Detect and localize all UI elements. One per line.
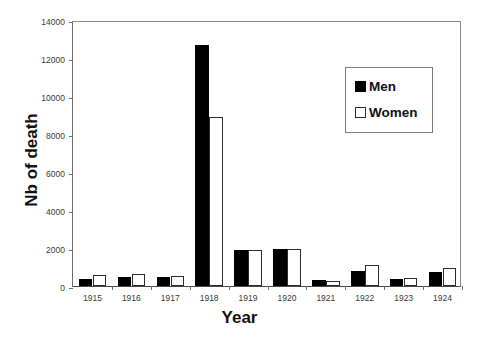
bar-men-1917: [157, 277, 171, 286]
x-tick-label: 1923: [394, 293, 413, 303]
bar-women-1924: [443, 268, 457, 286]
plot-area: 02000400060008000100001200014000 1915191…: [72, 21, 461, 287]
y-tick-label: 2000: [46, 245, 65, 255]
y-tick: [69, 136, 73, 137]
x-tick: [229, 286, 230, 290]
x-tick-label: 1924: [433, 293, 452, 303]
bar-men-1915: [79, 279, 93, 286]
y-tick: [69, 174, 73, 175]
x-tick-label: 1917: [161, 293, 180, 303]
bar-men-1923: [390, 279, 404, 286]
bar-men-1916: [118, 277, 132, 286]
y-tick-label: 6000: [46, 169, 65, 179]
x-tick-label: 1922: [355, 293, 374, 303]
bar-women-1923: [404, 278, 418, 286]
x-tick: [462, 286, 463, 290]
x-tick-label: 1921: [316, 293, 335, 303]
bar-men-1922: [351, 271, 365, 286]
y-tick: [69, 60, 73, 61]
bar-men-1918: [195, 45, 209, 286]
empty-square-icon: [355, 107, 366, 118]
x-tick-label: 1915: [83, 293, 102, 303]
bar-men-1924: [429, 272, 443, 286]
x-tick: [112, 286, 113, 290]
x-tick: [423, 286, 424, 290]
x-tick: [384, 286, 385, 290]
y-tick: [69, 250, 73, 251]
x-tick: [151, 286, 152, 290]
y-tick-label: 12000: [41, 55, 65, 65]
legend-item-women: Women: [355, 106, 418, 120]
y-tick-label: 0: [60, 283, 65, 293]
figure: Nb of death 0200040006000800010000120001…: [0, 0, 479, 343]
x-tick: [190, 286, 191, 290]
filled-square-icon: [355, 81, 366, 92]
bar-men-1919: [234, 250, 248, 286]
y-axis-title: Nb of death: [22, 70, 42, 250]
bar-women-1920: [287, 249, 301, 286]
x-tick: [345, 286, 346, 290]
bar-women-1917: [171, 276, 185, 286]
chart-legend: Men Women: [345, 67, 433, 133]
legend-label-women: Women: [369, 106, 418, 120]
y-tick-label: 8000: [46, 131, 65, 141]
y-tick-label: 14000: [41, 17, 65, 27]
bar-men-1920: [273, 249, 287, 286]
bar-women-1918: [209, 117, 223, 286]
x-tick: [268, 286, 269, 290]
bar-women-1921: [326, 281, 340, 286]
bar-men-1921: [312, 280, 326, 286]
x-tick-label: 1919: [239, 293, 258, 303]
bar-women-1922: [365, 265, 379, 286]
x-tick-label: 1916: [122, 293, 141, 303]
y-tick: [69, 98, 73, 99]
x-tick-label: 1920: [277, 293, 296, 303]
y-tick-label: 10000: [41, 93, 65, 103]
x-tick: [306, 286, 307, 290]
bar-women-1919: [248, 250, 262, 286]
y-tick: [69, 212, 73, 213]
x-tick-label: 1918: [200, 293, 219, 303]
legend-label-men: Men: [369, 80, 396, 94]
legend-item-men: Men: [355, 80, 396, 94]
x-axis-title: Year: [0, 308, 479, 328]
y-tick: [69, 22, 73, 23]
bar-women-1916: [132, 274, 146, 286]
y-tick-label: 4000: [46, 207, 65, 217]
y-tick: [69, 288, 73, 289]
bar-women-1915: [93, 275, 107, 286]
